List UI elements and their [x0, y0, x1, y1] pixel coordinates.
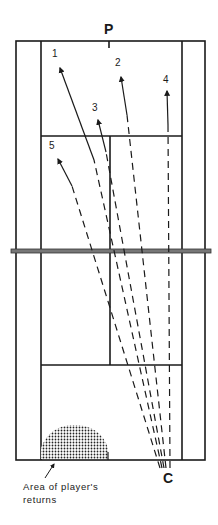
shot-4	[167, 91, 170, 468]
returns-area	[41, 425, 108, 459]
shot-1	[60, 68, 162, 468]
coach-label: C	[163, 470, 173, 486]
area-label-line1: Area of player's	[23, 481, 98, 492]
shot-label-1: 1	[52, 48, 58, 59]
tennis-court-diagram: 1 2 3 4 5 P C Area of player's returns	[0, 0, 218, 525]
shot-label-3: 3	[92, 102, 98, 113]
player-label: P	[104, 21, 113, 37]
area-label-line2: returns	[23, 494, 57, 505]
shot-label-2: 2	[115, 57, 121, 68]
net	[11, 249, 211, 253]
area-pointer-arrow	[45, 464, 54, 478]
shot-3	[98, 120, 164, 468]
shot-label-5: 5	[49, 140, 55, 151]
shot-5	[58, 159, 160, 468]
shot-label-4: 4	[163, 74, 169, 85]
